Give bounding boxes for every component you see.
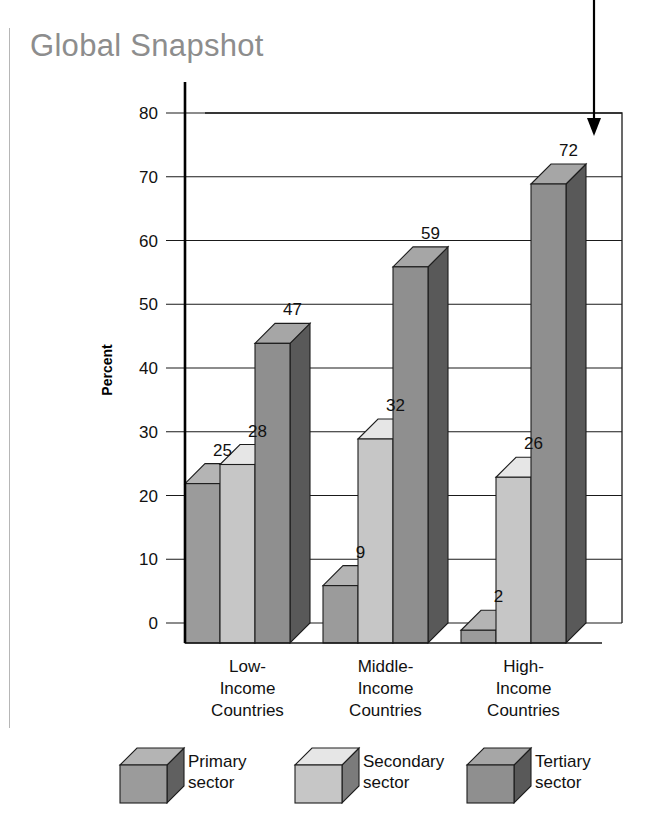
bar-front-2-1 <box>496 477 531 643</box>
legend: PrimarysectorSecondarysectorTertiarysect… <box>120 748 591 803</box>
bar-front-1-2 <box>393 267 428 643</box>
callout-arrow-head <box>587 118 601 136</box>
value-label-0-1: 28 <box>248 422 267 441</box>
legend-label-0-line1: Primary <box>188 752 247 771</box>
category-label-1-line1: Income <box>358 679 414 698</box>
y-tick-label-10: 10 <box>139 550 158 569</box>
y-tick-label-40: 40 <box>139 359 158 378</box>
y-tick-label-80: 80 <box>139 104 158 123</box>
category-label-2-line2: Countries <box>487 701 560 720</box>
bar-front-0-2 <box>255 343 290 643</box>
y-axis-title: Percent <box>99 344 115 396</box>
category-label-1-line2: Countries <box>349 701 422 720</box>
legend-label-0-line2: sector <box>188 773 235 792</box>
value-label-0-0: 25 <box>213 441 232 460</box>
value-label-1-2: 59 <box>421 224 440 243</box>
chart-page: Global Snapshot 01020304050607080 252847… <box>0 0 652 828</box>
y-tick-label-20: 20 <box>139 487 158 506</box>
value-label-2-1: 26 <box>524 434 543 453</box>
bar-front-0-0 <box>185 484 220 643</box>
bar-front-1-1 <box>358 439 393 643</box>
legend-cube-front-2 <box>467 765 514 803</box>
value-label-0-2: 47 <box>283 300 302 319</box>
legend-label-1-line1: Secondary <box>363 752 445 771</box>
category-labels: Low-IncomeCountriesMiddle-IncomeCountrie… <box>211 657 560 720</box>
y-tick-label-30: 30 <box>139 423 158 442</box>
y-axis-title-text: Percent <box>99 344 115 396</box>
value-label-2-2: 72 <box>559 141 578 160</box>
category-label-1-line0: Middle- <box>358 657 414 676</box>
bar-side-1-2 <box>428 247 448 643</box>
value-label-1-0: 9 <box>356 543 365 562</box>
value-label-2-0: 2 <box>494 587 503 606</box>
category-label-2-line0: High- <box>503 657 544 676</box>
bar-front-1-0 <box>323 586 358 643</box>
category-label-0-line0: Low- <box>229 657 266 676</box>
legend-label-2-line2: sector <box>535 773 582 792</box>
category-label-2-line1: Income <box>496 679 552 698</box>
y-tick-label-60: 60 <box>139 232 158 251</box>
bar-front-0-1 <box>220 465 255 644</box>
value-label-1-1: 32 <box>386 396 405 415</box>
callout-arrow <box>587 0 601 136</box>
global-snapshot-bar-chart: 01020304050607080 2528479325922672 Low-I… <box>0 0 652 828</box>
bar-side-2-2 <box>566 164 586 643</box>
y-tick-label-70: 70 <box>139 168 158 187</box>
bar-front-2-2 <box>531 184 566 643</box>
y-axis-tick-labels: 01020304050607080 <box>139 104 158 633</box>
legend-label-1-line2: sector <box>363 773 410 792</box>
category-label-0-line2: Countries <box>211 701 284 720</box>
legend-cube-front-0 <box>120 765 167 803</box>
legend-cube-front-1 <box>295 765 342 803</box>
category-label-0-line1: Income <box>220 679 276 698</box>
y-tick-label-0: 0 <box>149 614 158 633</box>
y-tick-label-50: 50 <box>139 295 158 314</box>
bar-front-2-0 <box>461 630 496 643</box>
legend-label-2-line1: Tertiary <box>535 752 591 771</box>
bar-side-0-2 <box>290 323 310 643</box>
